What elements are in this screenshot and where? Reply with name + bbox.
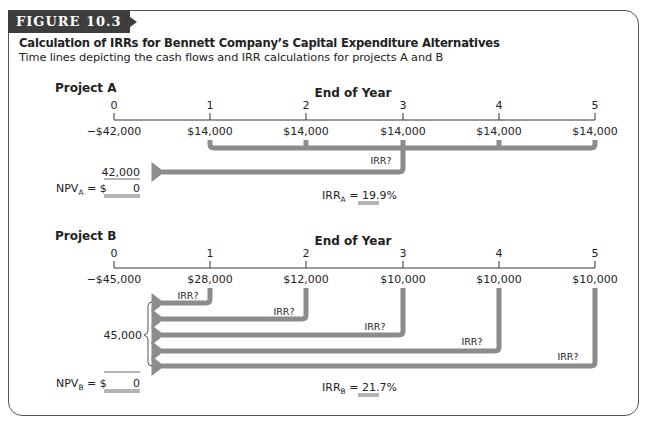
project-a-npv-value: 0 [133, 182, 140, 195]
svg-text:NPVA = $: NPVA = $ [56, 182, 107, 197]
project-b-timeline-axis [114, 261, 595, 268]
project-a-year-3: 3 [400, 99, 407, 112]
project-b-section: Project B End of Year 0 1 2 3 4 5 −$45,0… [55, 229, 618, 396]
project-a-axis-label: End of Year [315, 86, 392, 100]
project-a-npv-prefix: NPV [56, 182, 79, 195]
project-b-irr-marker-5: IRR? [557, 351, 578, 362]
project-b-year-5: 5 [592, 247, 599, 260]
svg-text:NPVB = $: NPVB = $ [56, 377, 107, 392]
project-a-pv-total: 42,000 [102, 166, 141, 179]
project-a-irr-value: 19.9% [362, 189, 397, 202]
project-a-year-0: 0 [111, 99, 118, 112]
project-b-year-1: 1 [207, 247, 214, 260]
irr-timeline-diagram: Project A End of Year 0 1 2 3 4 5 −$42,0… [0, 0, 648, 429]
project-a-cash-flow-3: $14,000 [380, 125, 426, 138]
project-a-npv: NPVA = $ 0 [56, 182, 140, 197]
project-b-year-0: 0 [111, 247, 118, 260]
project-b-irr-eq: = [346, 381, 362, 394]
project-b-npv-eq: = $ [84, 377, 107, 390]
project-b-cash-flow-2: $12,000 [283, 273, 329, 286]
project-a-npv-eq: = $ [84, 182, 107, 195]
project-b-cash-flow-5: $10,000 [572, 273, 618, 286]
project-a-irr-result: IRRA = 19.9% [322, 189, 397, 204]
project-a-year-5: 5 [592, 99, 599, 112]
project-b-npv-prefix: NPV [56, 377, 79, 390]
project-a-cash-flow-5: $14,000 [572, 125, 618, 138]
project-b-pv-total: 45,000 [104, 329, 143, 342]
project-b-irr-value: 21.7% [362, 381, 397, 394]
project-a-irr-prefix: IRR [322, 189, 341, 202]
project-a-year-4: 4 [496, 99, 503, 112]
project-a-year-2: 2 [303, 99, 310, 112]
project-b-cash-flow-0: −$45,000 [87, 273, 142, 286]
project-b-irr-marker-1: IRR? [177, 290, 198, 301]
project-b-year-2: 2 [303, 247, 310, 260]
project-b-cash-flow-4: $10,000 [476, 273, 522, 286]
project-a-irr-eq: = [346, 189, 362, 202]
project-a-year-1: 1 [207, 99, 214, 112]
project-b-irr-marker-2: IRR? [273, 306, 294, 317]
project-a-cash-flow-4: $14,000 [476, 125, 522, 138]
project-a-cash-flow-1: $14,000 [187, 125, 233, 138]
project-b-irr-result: IRRB = 21.7% [322, 381, 397, 396]
project-b-label: Project B [55, 229, 116, 243]
project-b-cash-flow-3: $10,000 [380, 273, 426, 286]
project-b-axis-label: End of Year [315, 234, 392, 248]
project-b-npv-value: 0 [133, 377, 140, 390]
project-b-cash-flow-1: $28,000 [187, 273, 233, 286]
project-a-section: Project A End of Year 0 1 2 3 4 5 −$42,0… [55, 81, 618, 204]
project-a-cash-flow-0: −$42,000 [87, 125, 142, 138]
project-b-irr-prefix: IRR [322, 381, 341, 394]
project-a-cash-flow-2: $14,000 [283, 125, 329, 138]
project-a-label: Project A [55, 81, 117, 95]
project-b-irr-marker-4: IRR? [461, 336, 482, 347]
project-b-npv: NPVB = $ 0 [56, 372, 140, 392]
project-a-timeline-axis [114, 113, 595, 120]
project-b-sum-brace [144, 302, 152, 366]
project-b-irr-marker-3: IRR? [364, 321, 385, 332]
project-a-irr-marker: IRR? [370, 155, 391, 166]
project-b-year-4: 4 [496, 247, 503, 260]
project-b-year-3: 3 [400, 247, 407, 260]
